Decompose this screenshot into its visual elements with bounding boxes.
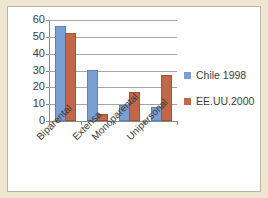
y-axis-tick-mark xyxy=(46,20,49,21)
legend-swatch-icon xyxy=(184,98,191,105)
y-axis-labels: 6050403020100 xyxy=(8,7,45,137)
x-axis-tick-mark xyxy=(81,121,82,125)
bar-group xyxy=(87,20,113,121)
plot-area xyxy=(49,20,177,121)
chart-legend: Chile 1998EE.UU.2000 xyxy=(184,69,260,121)
y-axis-tick-label: 10 xyxy=(11,98,45,109)
x-axis-tick-mark xyxy=(145,121,146,125)
x-axis-tick-mark xyxy=(177,121,178,125)
y-axis-tick-mark xyxy=(46,37,49,38)
legend-label: EE.UU.2000 xyxy=(196,96,254,107)
y-axis-tick-label: 60 xyxy=(11,14,45,25)
y-axis-tick-label: 0 xyxy=(11,115,45,126)
bar-group xyxy=(151,20,177,121)
y-axis-tick-mark xyxy=(46,104,49,105)
bar xyxy=(161,75,172,121)
y-axis-tick-label: 50 xyxy=(11,31,45,42)
y-axis-tick-mark xyxy=(46,54,49,55)
y-axis-tick-label: 30 xyxy=(11,65,45,76)
y-axis-tick-mark xyxy=(46,121,49,122)
y-axis-tick-mark xyxy=(46,71,49,72)
y-axis-tick-mark xyxy=(46,87,49,88)
bar xyxy=(97,114,108,121)
y-axis-tick-label: 40 xyxy=(11,48,45,59)
x-axis-tick-mark xyxy=(113,121,114,125)
chart-container: 6050403020100 BiparentalExtensaMonoparen… xyxy=(7,6,261,192)
bar xyxy=(129,92,140,121)
x-axis-tick-mark xyxy=(49,121,50,125)
legend-swatch-icon xyxy=(184,72,191,79)
y-axis-tick-label: 20 xyxy=(11,81,45,92)
legend-label: Chile 1998 xyxy=(196,70,246,81)
bar-group xyxy=(55,20,81,121)
legend-item: Chile 1998 xyxy=(184,69,260,81)
legend-item: EE.UU.2000 xyxy=(184,95,260,107)
bar-group xyxy=(119,20,145,121)
figure-frame: 6050403020100 BiparentalExtensaMonoparen… xyxy=(0,0,268,198)
bar xyxy=(65,33,76,121)
